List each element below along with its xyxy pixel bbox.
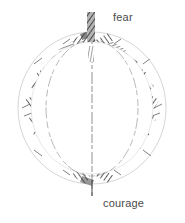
axis-label-courage: courage xyxy=(103,197,144,209)
wreath-sketch-canvas xyxy=(0,0,185,223)
axis-label-fear: fear xyxy=(113,11,133,23)
sketch-figure: fear courage xyxy=(0,0,185,223)
top-axis-tick-shade xyxy=(87,12,95,42)
upper-axis-stem xyxy=(88,46,94,62)
